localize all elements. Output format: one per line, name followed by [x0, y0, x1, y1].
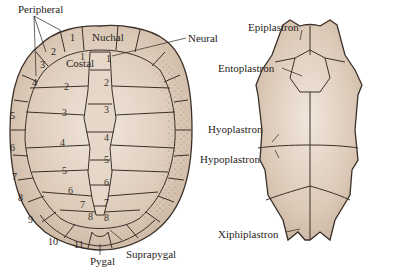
- peripheral-2: 2: [51, 47, 56, 57]
- costal-2: 2: [64, 82, 69, 92]
- label-epiplastron: Epiplastron: [248, 22, 299, 33]
- carapace: [10, 26, 192, 250]
- peripheral-3: 3: [40, 60, 45, 70]
- label-hyoplastron: Hyoplastron: [208, 124, 262, 135]
- neural-6: 6: [104, 178, 109, 188]
- costal-5: 5: [62, 166, 67, 176]
- label-peripheral: Peripheral: [18, 4, 63, 15]
- label-suprapygal: Suprapygal: [126, 249, 176, 260]
- peripheral-8: 8: [18, 193, 23, 203]
- peripheral-7: 7: [12, 172, 17, 182]
- costal-7: 7: [80, 200, 85, 210]
- label-nuchal: Nuchal: [92, 32, 124, 43]
- costal-8: 8: [88, 212, 93, 222]
- label-xiphiplastron: Xiphiplastron: [218, 229, 279, 240]
- neural-4: 4: [104, 133, 109, 143]
- peripheral-10: 10: [48, 237, 58, 247]
- costal-1: 1: [80, 52, 85, 62]
- label-neural: Neural: [188, 33, 218, 44]
- label-pygal: Pygal: [90, 256, 115, 267]
- costal-4: 4: [60, 138, 65, 148]
- label-entoplastron: Entoplastron: [218, 63, 274, 74]
- neural-7: 7: [104, 198, 109, 208]
- neural-1: 1: [106, 54, 111, 64]
- peripheral-4: 4: [32, 78, 37, 88]
- neural-5: 5: [104, 155, 109, 165]
- costal-3: 3: [62, 108, 67, 118]
- peripheral-1: 1: [70, 33, 75, 43]
- costal-6: 6: [68, 186, 73, 196]
- plastron: [256, 20, 362, 240]
- label-hypoplastron: Hypoplastron: [200, 154, 260, 165]
- peripheral-6: 6: [10, 143, 15, 153]
- neural-2: 2: [104, 78, 109, 88]
- peripheral-11: 11: [74, 240, 84, 250]
- neural-3: 3: [104, 105, 109, 115]
- neural-8: 8: [104, 213, 109, 223]
- peripheral-5: 5: [10, 111, 15, 121]
- peripheral-9: 9: [28, 215, 33, 225]
